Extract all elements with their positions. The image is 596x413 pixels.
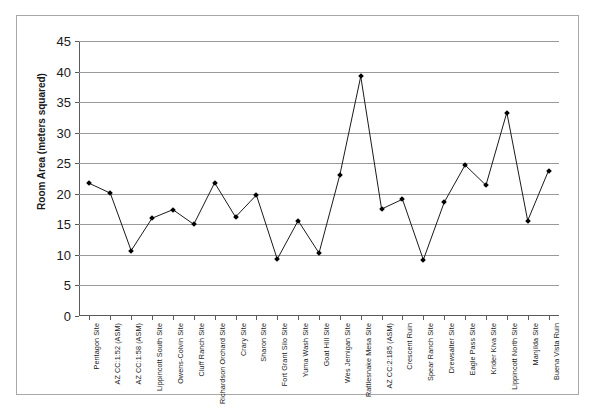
x-tick-label: Crary Site [239, 323, 248, 356]
x-tick-mark [236, 316, 237, 320]
x-tick-mark [382, 316, 383, 320]
x-tick-label: Buena Vista Ruin [552, 323, 561, 380]
y-tick-label: 20 [57, 186, 71, 201]
y-tick-label: 10 [57, 247, 71, 262]
x-tick-mark [152, 316, 153, 320]
y-tick-label: 30 [57, 125, 71, 140]
x-tick-mark [194, 316, 195, 320]
x-tick-mark [402, 316, 403, 320]
x-tick-mark [528, 316, 529, 320]
x-tick-label: Pentagon Site [92, 323, 101, 369]
x-tick-mark [110, 316, 111, 320]
x-tick-mark [277, 316, 278, 320]
x-tick-mark [173, 316, 174, 320]
x-tick-label: Eagle Pass Site [468, 323, 477, 375]
chart-frame: Room Area (meters squared) 0510152025303… [16, 15, 579, 395]
x-tick-label: Spear Ranch Site [426, 323, 435, 381]
y-tick-label: 35 [57, 95, 71, 110]
x-tick-mark [486, 316, 487, 320]
x-tick-label: Richardson Orchard Site [218, 323, 227, 404]
x-tick-label: Rattlesnake Mesa Site [364, 323, 373, 397]
x-tick-label: Krider Kiva Site [489, 323, 498, 374]
y-tick-label: 5 [64, 278, 71, 293]
x-tick-mark [131, 316, 132, 320]
x-tick-label: Drewsalter Site [447, 323, 456, 373]
x-tick-mark [340, 316, 341, 320]
y-tick-label: 40 [57, 64, 71, 79]
x-tick-mark [319, 316, 320, 320]
x-tick-label: AZ CC:1:58 (ASM) [134, 323, 143, 385]
x-tick-label: Crescent Ruin [405, 323, 414, 370]
x-tick-label: Goat Hill Site [322, 323, 331, 366]
x-tick-label: Owens-Colvin Site [176, 323, 185, 384]
x-tick-mark [215, 316, 216, 320]
x-tick-mark [507, 316, 508, 320]
x-tick-label: AZ CC:1:52 (ASM) [113, 323, 122, 385]
y-tick-label: 45 [57, 34, 71, 49]
y-tick-mark [75, 316, 79, 317]
y-tick-label: 0 [64, 309, 71, 324]
x-tick-mark [298, 316, 299, 320]
x-tick-label: Yuma Wash Site [301, 323, 310, 377]
y-tick-label: 15 [57, 217, 71, 232]
x-tick-label: Lippincott North Site [510, 323, 519, 390]
x-tick-mark [423, 316, 424, 320]
x-tick-label: Cluff Ranch Site [197, 323, 206, 376]
x-tick-label: AZ CC:2:185 (ASM) [385, 323, 394, 389]
x-tick-label: Manjilda Site [531, 323, 540, 365]
x-tick-label: Sharon Site [259, 323, 268, 362]
y-tick-label: 25 [57, 156, 71, 171]
x-tick-label: Lippincott South Site [155, 323, 164, 391]
x-tick-mark [361, 316, 362, 320]
x-tick-mark [549, 316, 550, 320]
x-tick-mark [89, 316, 90, 320]
x-tick-mark [465, 316, 466, 320]
y-axis-title: Room Area (meters squared) [36, 52, 47, 232]
series-line [79, 41, 559, 316]
x-tick-label: Wes Jernigan Site [343, 323, 352, 383]
x-tick-mark [256, 316, 257, 320]
plot-area: 051015202530354045 Pentagon SiteAZ CC:1:… [79, 41, 559, 316]
x-tick-mark [444, 316, 445, 320]
x-tick-label: Fort Grant Silo Site [280, 323, 289, 386]
